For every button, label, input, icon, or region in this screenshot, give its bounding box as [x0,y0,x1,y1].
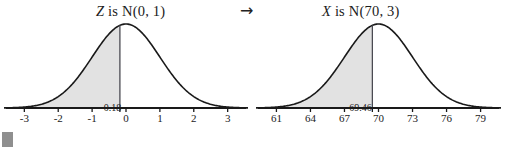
chart-title-text-z: is N(0, 1) [104,3,165,19]
corner-artifact-mark [2,132,13,147]
normal-distribution-transformation-figure: Z is N(0, 1) → X is N(70, 3) -3-2-10123 … [0,0,505,160]
x-axis-tick-label: 0 [123,112,129,125]
shaded-area [4,25,120,108]
shaded-area [256,25,372,108]
standard-normal-curve-svg [4,18,248,118]
cutoff-label-transformed-normal: 69.46 [349,102,372,114]
x-axis-tick-label: 64 [305,112,316,125]
x-axis-tick-label: 3 [225,112,231,125]
x-axis-tick-label: -2 [54,112,63,125]
chart-title-standard-normal: Z is N(0, 1) [96,3,165,19]
chart-title-variable-x: X [322,3,331,19]
x-axis-tick-labels-transformed-normal: 61646770737679 [256,112,501,130]
transformed-normal-curve-svg [256,18,501,118]
cutoff-label-standard-normal: -0.18 [100,102,121,114]
x-axis-tick-label: 76 [441,112,452,125]
x-axis-tick-label: -3 [20,112,29,125]
x-axis-tick-label: -1 [88,112,97,125]
x-axis-tick-label: 79 [475,112,486,125]
bell-curve-outline [4,24,248,108]
x-axis-tick-label: 1 [157,112,163,125]
plot-transformed-normal: 61646770737679 69.46 [256,18,501,160]
x-axis-tick-label: 73 [407,112,418,125]
plot-standard-normal: -3-2-10123 -0.18 [4,18,248,160]
chart-title-text-x: is N(70, 3) [331,3,399,19]
x-axis-tick-labels-standard-normal: -3-2-10123 [4,112,248,130]
x-axis-tick-label: 70 [373,112,384,125]
bell-curve-outline [256,24,501,108]
x-axis-tick-label: 61 [271,112,282,125]
chart-title-transformed-normal: X is N(70, 3) [322,3,400,19]
x-axis-tick-label: 2 [191,112,197,125]
